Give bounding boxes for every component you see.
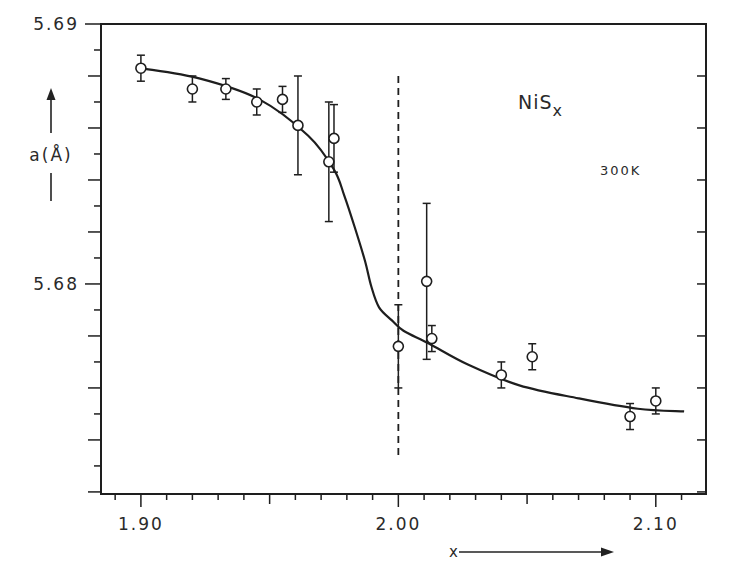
open-circle-marker-icon [293, 120, 303, 130]
x-axis-label-group: x [449, 543, 614, 561]
open-circle-marker-icon [329, 133, 339, 143]
compound-label: NiSx [518, 91, 563, 120]
open-circle-marker-icon [136, 63, 146, 73]
y-axis-label-group: a(Å) [29, 88, 72, 201]
lattice-parameter-chart: 1.902.002.105.685.69 a(Å) x NiSx 300K [0, 0, 731, 580]
open-circle-marker-icon [221, 84, 231, 94]
compound-subscript: x [553, 101, 563, 120]
open-circle-marker-icon [422, 276, 432, 286]
data-point [293, 76, 303, 175]
data-point [252, 89, 262, 115]
x-tick-label: 2.10 [633, 514, 679, 534]
compound-annotation: NiSx [518, 91, 563, 120]
open-circle-marker-icon [651, 396, 661, 406]
x-axis-label: x [449, 543, 458, 561]
data-point [221, 79, 231, 100]
open-circle-marker-icon [393, 341, 403, 351]
open-circle-marker-icon [625, 412, 635, 422]
y-tick-label: 5.69 [33, 14, 79, 34]
data-point [496, 362, 506, 388]
data-point [324, 102, 334, 222]
data-point [393, 305, 403, 388]
open-circle-marker-icon [427, 334, 437, 344]
temperature-label: 300K [600, 163, 641, 178]
guide-curve-path [141, 68, 684, 411]
compound-name: NiS [518, 91, 553, 113]
y-axis-label: a(Å) [29, 144, 72, 165]
open-circle-marker-icon [324, 157, 334, 167]
x-axis-arrowhead-icon [601, 548, 614, 557]
data-point [527, 344, 537, 370]
guide-curve [141, 68, 684, 411]
y-axis-arrowhead-icon [47, 88, 56, 100]
x-tick-label: 2.00 [375, 514, 421, 534]
data-point [278, 86, 288, 112]
open-circle-marker-icon [187, 84, 197, 94]
x-tick-label: 1.90 [118, 514, 164, 534]
data-points [136, 55, 661, 429]
axis-ticks [85, 24, 706, 507]
y-tick-label: 5.68 [33, 274, 79, 294]
data-point [187, 76, 197, 102]
data-point [136, 55, 146, 81]
open-circle-marker-icon [278, 94, 288, 104]
open-circle-marker-icon [527, 352, 537, 362]
axis-tick-labels: 1.902.002.105.685.69 [33, 14, 679, 534]
open-circle-marker-icon [252, 97, 262, 107]
open-circle-marker-icon [496, 370, 506, 380]
